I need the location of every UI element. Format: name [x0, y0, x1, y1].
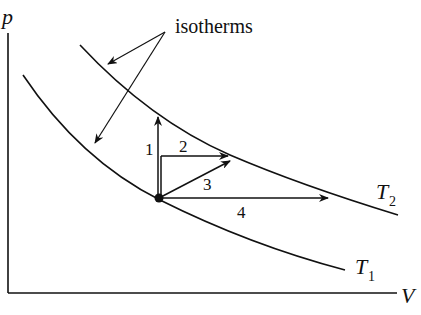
path-3-label: 3 [203, 175, 212, 194]
path-2-label: 2 [179, 137, 188, 156]
annotation-arrow-lower [95, 32, 165, 143]
isotherm-t2-curve [80, 45, 398, 215]
svg-text:T: T [355, 254, 369, 279]
svg-text:1: 1 [368, 269, 375, 284]
path-3-arrow [159, 161, 230, 198]
state-point [155, 194, 164, 203]
isotherm-t1-curve [23, 75, 345, 270]
path-1-label: 1 [145, 140, 154, 159]
y-axis-label: p [0, 4, 13, 29]
path-4-label: 4 [237, 203, 246, 222]
svg-text:T: T [376, 179, 390, 204]
pv-diagram: p V T 2 T 1 isotherms 1 2 3 4 [0, 0, 421, 315]
axes [8, 33, 397, 293]
x-axis-label: V [401, 283, 417, 308]
svg-text:2: 2 [389, 194, 396, 209]
annotation-arrow-upper [108, 32, 165, 64]
isotherm-t1-label: T 1 [355, 254, 375, 284]
isotherms-annotation: isotherms [175, 15, 253, 37]
isotherm-t2-label: T 2 [376, 179, 396, 209]
